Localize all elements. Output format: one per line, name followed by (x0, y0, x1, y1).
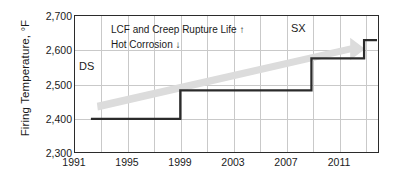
x-tick-label-1999: 1999 (156, 157, 204, 168)
x-tick-label-1995: 1995 (103, 157, 151, 168)
x-tick-label-2011: 2011 (315, 157, 363, 168)
annotation-sx-label: SX (291, 23, 306, 34)
y-axis-title: Firing Temperature, °F (19, 3, 31, 153)
firing-temperature-chart: Firing Temperature, °F 2,700 2,600 2,500… (0, 0, 398, 178)
y-tick-label-2400: 2,400 (26, 114, 72, 125)
x-tick-label-1991: 1991 (50, 157, 98, 168)
x-tick-label-2007: 2007 (262, 157, 310, 168)
x-tick-label-2003: 2003 (209, 157, 257, 168)
annotation-lcf-creep-rupture: LCF and Creep Rupture Life ↑ (111, 25, 244, 35)
annotation-ds-label: DS (79, 61, 94, 72)
plot-area: LCF and Creep Rupture Life ↑ Hot Corrosi… (74, 15, 379, 153)
y-tick-label-2500: 2,500 (26, 80, 72, 91)
annotation-hot-corrosion: Hot Corrosion ↓ (111, 40, 180, 50)
y-tick-label-2600: 2,600 (26, 45, 72, 56)
chart-svg-layer (75, 16, 378, 152)
y-tick-label-2700: 2,700 (26, 11, 72, 22)
